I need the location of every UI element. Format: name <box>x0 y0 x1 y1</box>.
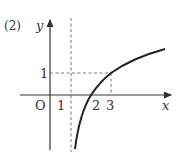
y-tick-1: 1 <box>40 66 48 81</box>
log-curve <box>75 49 165 149</box>
origin-label: O <box>35 98 46 113</box>
y-axis-label: y <box>35 18 44 33</box>
graph: (2) y x O 1 2 3 1 <box>0 0 188 160</box>
x-axis-label: x <box>162 98 170 113</box>
problem-label: (2) <box>4 19 21 33</box>
x-tick-3: 3 <box>106 98 114 113</box>
x-tick-1: 1 <box>57 98 65 113</box>
x-tick-2: 2 <box>92 98 100 113</box>
